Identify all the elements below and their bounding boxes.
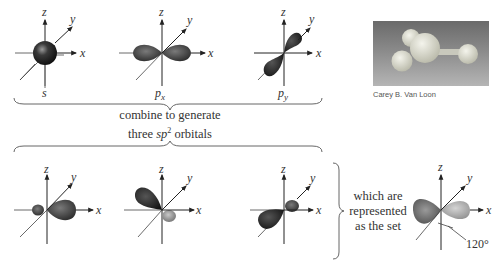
molecular-model-photo [373,21,489,86]
sp2-orbital-3 [250,175,313,244]
svg-text:y: y [466,171,473,185]
photo-credit: Carey B. Van Loon [373,90,436,99]
svg-text:x: x [315,203,322,217]
px-orbital [119,20,205,86]
sp2-orbital-2 [124,175,194,244]
svg-text:x: x [315,46,322,60]
orbital-names: s px py [42,86,288,102]
svg-text:z: z [41,5,47,19]
svg-text:x: x [95,203,102,217]
svg-text:y: y [186,13,193,27]
generate-brace [14,141,322,152]
sp2-orbital-1 [14,175,93,244]
px-label: px [154,86,165,102]
svg-text:y: y [308,12,315,26]
s-label: s [42,86,47,100]
set-caption-line1: which are [343,189,413,204]
set-caption-line2: represented [343,204,413,219]
svg-text:y: y [309,171,316,185]
combine-caption-line2: three sp2 orbitals [100,123,240,142]
svg-text:x: x [485,203,492,217]
svg-text:y: y [69,12,76,26]
svg-text:x: x [79,46,86,60]
py-orbital [254,20,312,86]
combine-caption-line1: combine to generate [100,108,240,123]
svg-text:x: x [195,203,202,217]
svg-text:x: x [207,46,214,60]
set-caption: which are represented as the set [343,189,413,234]
angle-label: 120° [466,237,489,251]
combine-caption: combine to generate three sp2 orbitals [100,108,240,142]
svg-text:y: y [70,170,77,184]
svg-text:z: z [158,162,164,176]
svg-text:z: z [43,162,49,176]
svg-text:y: y [186,171,193,185]
svg-text:z: z [280,5,286,19]
py-label: py [277,86,288,102]
set-caption-line3: as the set [343,219,413,234]
svg-text:z: z [158,5,164,19]
svg-text:z: z [280,162,286,176]
s-orbital [15,20,76,88]
svg-text:z: z [437,160,443,174]
